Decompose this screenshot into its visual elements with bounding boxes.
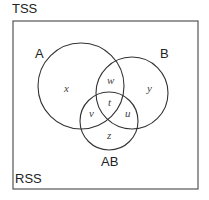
region-w: w xyxy=(107,74,115,86)
set-ab-label: AB xyxy=(101,154,118,169)
tss-label: TSS xyxy=(12,1,38,16)
region-v: v xyxy=(89,107,94,119)
rss-label: RSS xyxy=(15,171,42,186)
set-b-label: B xyxy=(160,46,169,61)
region-z: z xyxy=(106,129,112,141)
set-a-label: A xyxy=(35,46,44,61)
region-x: x xyxy=(63,82,69,94)
venn-diagram: TSS RSS A B AB x y w t u v z xyxy=(0,0,209,200)
region-t: t xyxy=(108,96,112,108)
region-u: u xyxy=(125,107,131,119)
circle-b xyxy=(96,57,168,129)
region-y: y xyxy=(146,82,152,94)
circle-a xyxy=(38,43,124,129)
